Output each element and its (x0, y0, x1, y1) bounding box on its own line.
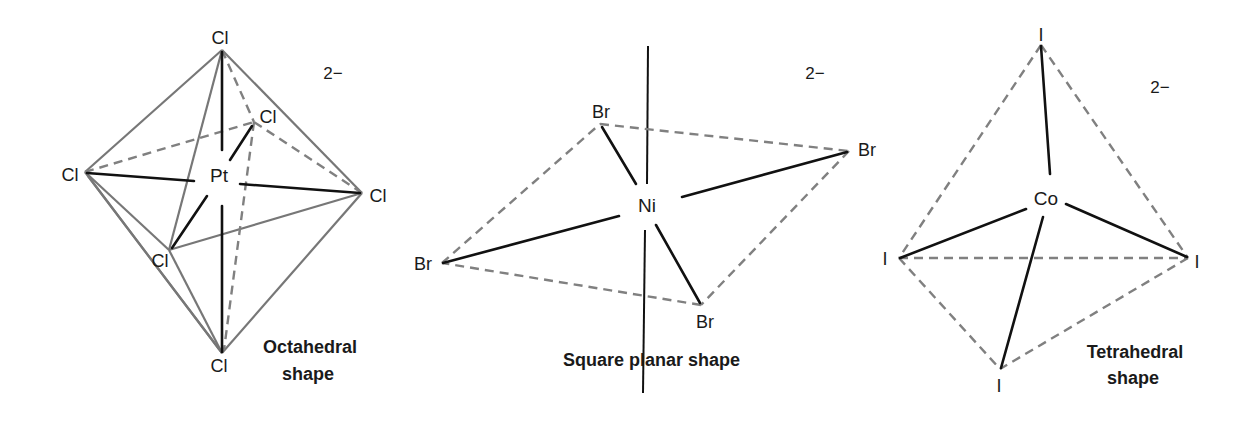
charge-label: 2− (805, 64, 824, 83)
z-axis-line (643, 46, 648, 393)
ligand-cl-left: Cl (62, 165, 79, 185)
central-atom-ni: Ni (638, 195, 656, 216)
caption-tetrahedral: Tetrahedral (1087, 342, 1184, 362)
charge-label: 2− (1150, 78, 1169, 97)
central-atom-pt: Pt (210, 165, 229, 186)
caption-octahedral: Octahedral (263, 337, 357, 357)
octahedron-hidden-edges (85, 50, 362, 350)
ligand-br-right: Br (858, 140, 876, 160)
octahedron-edges (85, 50, 362, 353)
ligand-cl-front: Cl (152, 251, 169, 271)
ligand-cl-bottom: Cl (211, 356, 228, 376)
ligand-i-right: I (1194, 252, 1199, 272)
caption-shape: shape (1107, 368, 1159, 388)
ligand-br-bottom: Br (696, 312, 714, 332)
ligand-i-top: I (1038, 25, 1043, 45)
coordination-geometry-figure: Pt Cl Cl Cl Cl Cl Cl 2− Octahedral shape (0, 0, 1255, 432)
pt-cl-bonds (87, 52, 360, 352)
ligand-br-top-left: Br (592, 102, 610, 122)
tetrahedral-panel: Co I I I I 2− Tetrahedral shape (882, 25, 1199, 396)
charge-label: 2− (323, 64, 342, 83)
central-atom-co: Co (1034, 188, 1058, 209)
ligand-cl-back: Cl (260, 107, 277, 127)
caption-shape: shape (282, 364, 334, 384)
ligand-i-bottom: I (996, 376, 1001, 396)
ligand-br-left: Br (414, 254, 432, 274)
caption-square-planar: Square planar shape (563, 350, 740, 370)
ligand-i-left: I (882, 249, 887, 269)
octahedral-panel: Pt Cl Cl Cl Cl Cl Cl 2− Octahedral shape (62, 28, 387, 384)
ligand-cl-right: Cl (370, 186, 387, 206)
square-planar-panel: Ni Br Br Br Br 2− Square planar shape (414, 46, 876, 393)
ligand-cl-top: Cl (212, 28, 229, 48)
